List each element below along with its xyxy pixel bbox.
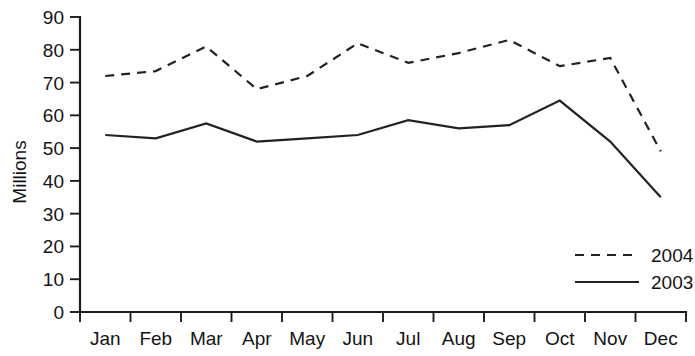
x-tick-label: Jul [396,328,420,349]
y-tick-label: 10 [43,269,64,290]
x-tick-label: Jun [342,328,373,349]
x-tick-label: Oct [545,328,575,349]
x-tick-label: May [289,328,325,349]
chart-canvas: 0102030405060708090 JanFebMarAprMayJunJu… [0,0,695,356]
y-tick-label: 0 [53,302,64,323]
y-tick-label: 20 [43,236,64,257]
y-axis-ticks: 0102030405060708090 [43,7,80,323]
x-axis-ticks: JanFebMarAprMayJunJulAugSepOctNovDec [80,312,686,349]
chart-legend: 20042003 [575,245,694,293]
x-tick-label: Jan [90,328,121,349]
y-tick-label: 30 [43,204,64,225]
legend-label-2003: 2003 [651,272,693,293]
x-tick-label: Nov [593,328,627,349]
legend-label-2004: 2004 [651,245,694,266]
y-tick-label: 80 [43,40,64,61]
x-tick-label: Dec [644,328,678,349]
x-tick-label: Mar [190,328,223,349]
series-line-2004 [105,40,661,151]
data-series-group [105,40,661,197]
y-tick-label: 90 [43,7,64,28]
y-tick-label: 40 [43,171,64,192]
x-tick-label: Apr [242,328,272,349]
y-tick-label: 60 [43,105,64,126]
y-axis-title: Millions [9,140,30,203]
y-tick-label: 70 [43,73,64,94]
y-tick-label: 50 [43,138,64,159]
x-tick-label: Feb [139,328,172,349]
x-tick-label: Aug [442,328,476,349]
series-line-2003 [105,101,661,198]
line-chart: 0102030405060708090 JanFebMarAprMayJunJu… [0,0,695,356]
x-tick-label: Sep [492,328,526,349]
